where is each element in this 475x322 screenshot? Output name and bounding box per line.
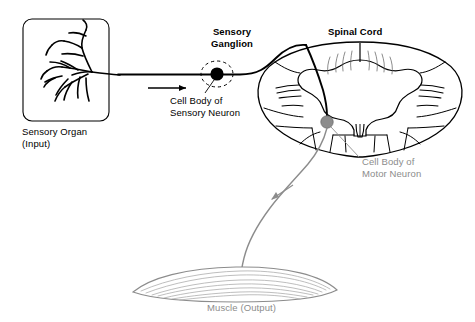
motor-axon	[241, 128, 327, 278]
motor-flow-arrow	[271, 185, 293, 200]
spinal-cord-group	[258, 42, 462, 157]
muscle-group	[133, 267, 337, 302]
label-cell-body-motor-neuron: Cell Body ofMotor Neuron	[362, 156, 421, 179]
label-sensory-ganglion-line2: Ganglion	[211, 38, 253, 49]
label-muscle-output: Muscle (Output)	[207, 302, 276, 314]
sensory-ganglion-cell-body	[210, 67, 223, 80]
label-sensory-ganglion: SensoryGanglion	[194, 26, 270, 49]
label-sensory-organ-line1: Sensory Organ	[22, 126, 87, 137]
sensory-nerve-endings-icon	[41, 20, 120, 101]
label-sensory-organ: Sensory Organ(Input)	[22, 126, 87, 149]
label-sensory-ganglion-line1: Sensory	[213, 26, 251, 37]
reflex-arc-diagram: Sensory Organ(Input) SensoryGanglion Cel…	[0, 0, 475, 322]
sensory-organ-box	[23, 19, 109, 121]
label-cell-body-motor-line1: Cell Body of	[362, 156, 414, 167]
label-cell-body-sensory-neuron: Cell Body ofSensory Neuron	[170, 95, 240, 118]
label-spinal-cord: Spinal Cord	[328, 26, 382, 38]
label-cell-body-motor-line2: Motor Neuron	[362, 168, 421, 179]
sensory-flow-arrow	[148, 85, 186, 91]
sensory-organ-group	[23, 19, 120, 121]
label-sensory-organ-line2: (Input)	[22, 138, 50, 149]
motor-neuron-cell-body	[321, 116, 333, 128]
label-cell-body-sensory-line2: Sensory Neuron	[170, 107, 240, 118]
motor-axon-group	[234, 128, 327, 290]
label-cell-body-sensory-line1: Cell Body of	[170, 95, 222, 106]
